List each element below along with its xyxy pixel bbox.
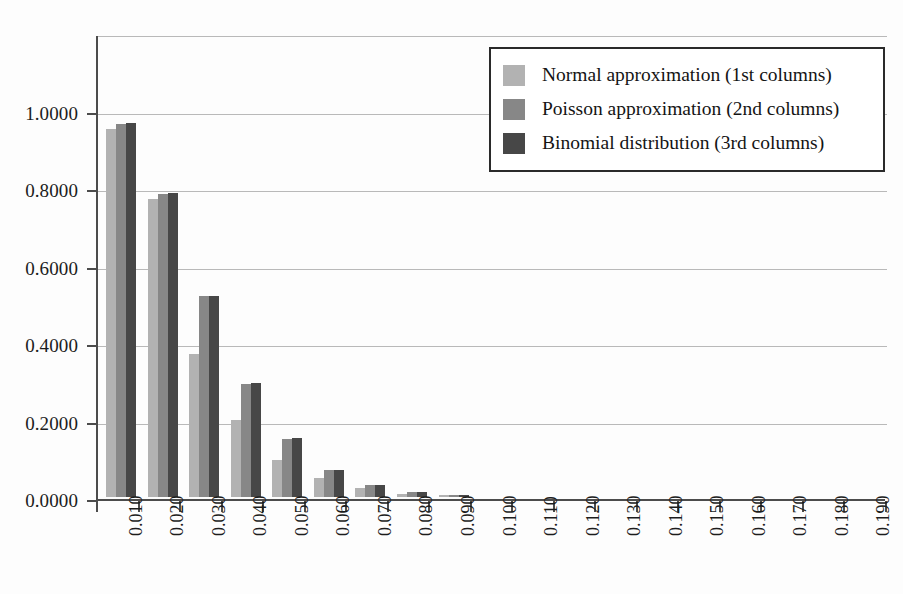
bar [199, 296, 209, 497]
bar-group [439, 32, 470, 497]
x-axis-label: 0.010 [126, 518, 147, 536]
bar-group [231, 32, 262, 497]
bar [251, 383, 261, 497]
x-axis-label: 0.120 [583, 518, 604, 536]
bar [397, 494, 407, 497]
bar [231, 420, 241, 498]
legend-item[interactable]: Normal approximation (1st columns) [503, 58, 871, 92]
bar [334, 470, 344, 498]
y-axis-tick [87, 500, 96, 502]
x-axis-label: 0.060 [333, 518, 354, 536]
bar [209, 296, 219, 498]
bar-group [189, 32, 220, 497]
bar-group [355, 32, 386, 497]
bar-group [272, 32, 303, 497]
y-axis-label: 0.8000 [25, 180, 78, 202]
legend-item-label: Binomial distribution (3rd columns) [542, 132, 824, 154]
y-axis-tick [87, 423, 96, 425]
x-axis-label: 0.110 [541, 518, 562, 536]
bar [292, 438, 302, 497]
bar [365, 485, 375, 497]
bar [168, 193, 178, 497]
x-axis-label: 0.190 [873, 518, 894, 536]
x-axis-label: 0.100 [500, 518, 521, 536]
x-axis-label: 0.180 [832, 518, 853, 536]
legend-swatch-icon [503, 133, 525, 154]
legend-item-label: Poisson approximation (2nd columns) [542, 98, 839, 120]
bar [148, 199, 158, 497]
bar-group [314, 32, 345, 497]
x-axis-label: 0.160 [749, 518, 770, 536]
bar-group [397, 32, 428, 497]
x-axis-label: 0.140 [666, 518, 687, 536]
x-axis-label: 0.020 [167, 518, 188, 536]
x-axis-label: 0.070 [375, 518, 396, 536]
y-axis-label: 0.4000 [25, 335, 78, 357]
bar [355, 488, 365, 497]
chart-legend: Normal approximation (1st columns)Poisso… [489, 47, 885, 172]
legend-swatch-icon [503, 65, 525, 86]
y-axis-tick [87, 190, 96, 192]
x-axis-tick [96, 501, 98, 512]
bar [241, 384, 251, 497]
x-axis-label: 0.170 [790, 518, 811, 536]
x-axis-label: 0.090 [458, 518, 479, 536]
x-axis-label: 0.050 [292, 518, 313, 536]
y-axis-label: 1.0000 [25, 103, 78, 125]
bar [126, 123, 136, 497]
x-axis-label: 0.080 [416, 518, 437, 536]
y-axis-label: 0.6000 [25, 258, 78, 280]
legend-item[interactable]: Binomial distribution (3rd columns) [503, 126, 871, 160]
y-axis-label: 0.2000 [25, 413, 78, 435]
bar [439, 495, 449, 497]
bar [189, 354, 199, 497]
legend-item-label: Normal approximation (1st columns) [542, 64, 832, 86]
y-axis: 0.00000.20000.40000.60000.80001.0000 [0, 0, 96, 594]
x-axis-label: 0.150 [707, 518, 728, 536]
bar-group [148, 32, 179, 497]
y-axis-tick [87, 268, 96, 270]
y-axis-label: 0.0000 [25, 490, 78, 512]
legend-swatch-icon [503, 99, 525, 120]
x-axis-label: 0.130 [624, 518, 645, 536]
x-axis-label: 0.040 [250, 518, 271, 536]
x-axis-label: 0.030 [209, 518, 230, 536]
bar-chart: 0.00000.20000.40000.60000.80001.0000 0.0… [0, 0, 903, 594]
bar [116, 124, 126, 497]
bar [324, 470, 334, 497]
y-axis-tick [87, 113, 96, 115]
bar [106, 129, 116, 497]
bar [282, 439, 292, 497]
bar [158, 194, 168, 497]
bar-group [106, 32, 137, 497]
y-axis-tick [87, 345, 96, 347]
bar [272, 460, 282, 497]
bar [314, 478, 324, 497]
legend-item[interactable]: Poisson approximation (2nd columns) [503, 92, 871, 126]
